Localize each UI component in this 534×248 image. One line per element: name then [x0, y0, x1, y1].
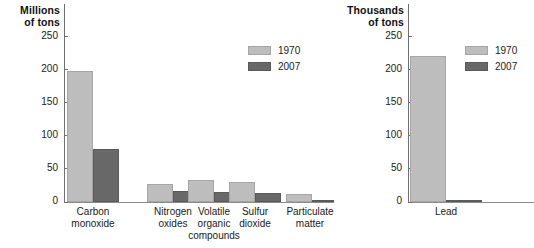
bar-carbon-monoxide-2007 — [93, 149, 119, 202]
left-legend: 1970 2007 — [248, 44, 300, 76]
legend-entry-1970-right: 1970 — [465, 44, 517, 57]
right-ytick-label-100: 100 — [372, 130, 402, 140]
cat-label-lead: Lead — [408, 206, 484, 218]
left-ytick-label-200: 200 — [28, 64, 58, 74]
right-ytick-mark-0 — [408, 202, 412, 203]
left-ytick-label-150: 150 — [28, 97, 58, 107]
legend-swatch-2007-icon — [248, 62, 271, 71]
legend-label-1970-right: 1970 — [495, 46, 517, 56]
left-ytick-label-0: 0 — [28, 196, 58, 206]
right-legend: 1970 2007 — [465, 44, 517, 76]
left-y-axis-line — [64, 4, 65, 203]
right-ytick-label-250: 250 — [372, 31, 402, 41]
right-ytick-label-0: 0 — [372, 196, 402, 206]
bar-particulate-matter-1970 — [286, 194, 312, 202]
bar-particulate-matter-2007 — [312, 200, 334, 202]
bar-sulfur-dioxide-1970 — [229, 182, 255, 202]
cat-label-carbon-monoxide: Carbon monoxide — [55, 206, 131, 230]
bar-sulfur-dioxide-2007 — [255, 193, 281, 202]
legend-label-1970: 1970 — [278, 46, 300, 56]
right-y-axis-title: Thousands of tons — [340, 4, 404, 28]
legend-swatch-1970-icon — [248, 46, 271, 55]
left-ytick-label-100: 100 — [28, 130, 58, 140]
left-x-axis-line — [64, 202, 334, 203]
right-ytick-mark-250 — [408, 36, 412, 37]
legend-label-2007-right: 2007 — [495, 62, 517, 72]
pollutant-emissions-figure: Millions of tons 250 200 150 100 50 0 19… — [0, 0, 534, 248]
cat-label-particulate-matter: Particulate matter — [272, 206, 348, 230]
right-chart-panel: Thousands of tons 250 200 150 100 50 0 1… — [340, 0, 534, 248]
left-ytick-mark-0 — [64, 202, 68, 203]
bar-lead-1970 — [410, 56, 446, 202]
bar-nitrogen-oxides-1970 — [147, 184, 173, 202]
left-chart-panel: Millions of tons 250 200 150 100 50 0 19… — [0, 0, 340, 248]
bar-volatile-organic-compounds-1970 — [188, 180, 214, 202]
left-ytick-mark-200 — [64, 69, 68, 70]
left-ytick-label-50: 50 — [28, 163, 58, 173]
right-y-axis-line — [408, 4, 409, 203]
right-ytick-label-150: 150 — [372, 97, 402, 107]
bar-lead-2007 — [446, 200, 482, 202]
legend-entry-2007: 2007 — [248, 60, 300, 73]
right-ytick-label-50: 50 — [372, 163, 402, 173]
right-ytick-label-200: 200 — [372, 64, 402, 74]
legend-entry-1970: 1970 — [248, 44, 300, 57]
left-ytick-mark-250 — [64, 36, 68, 37]
legend-swatch-2007-icon — [465, 62, 488, 71]
right-x-axis-line — [408, 202, 534, 203]
legend-entry-2007-right: 2007 — [465, 60, 517, 73]
legend-swatch-1970-icon — [465, 46, 488, 55]
legend-label-2007: 2007 — [278, 62, 300, 72]
left-ytick-label-250: 250 — [28, 31, 58, 41]
left-y-axis-title: Millions of tons — [2, 4, 60, 28]
bar-carbon-monoxide-1970 — [67, 71, 93, 202]
